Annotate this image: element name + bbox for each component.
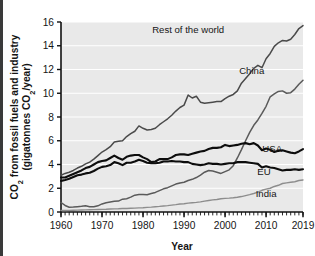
co2-emissions-line-chart: 0246810121416 19601970198019902000201020…: [3, 0, 315, 256]
series-label-china: China: [239, 65, 265, 76]
x-tick-label-2000: 2000: [214, 220, 237, 231]
x-axis-title: Year: [171, 241, 193, 252]
x-tick-label-1960: 1960: [50, 220, 73, 231]
series-label-rest-of-the-world: Rest of the world: [152, 24, 224, 35]
y-axis-title-line1-post: from fossil fuels and industry: [9, 34, 20, 180]
y-tick-label-16: 16: [43, 17, 55, 28]
y-axis-title-line2-post: /year): [21, 63, 32, 90]
x-tick-label-1970: 1970: [91, 220, 114, 231]
y-tick-label-0: 0: [48, 207, 54, 218]
y-tick-label-4: 4: [48, 159, 54, 170]
x-tick-label-1980: 1980: [132, 220, 155, 231]
series-label-usa: USA: [262, 143, 282, 154]
x-tick-label-2019: 2019: [292, 220, 315, 231]
y-tick-label-10: 10: [43, 88, 55, 99]
y-tick-label-6: 6: [48, 135, 54, 146]
y-axis-title-line2-pre: (gigatonnes CO: [21, 95, 32, 171]
y-tick-label-12: 12: [43, 64, 55, 75]
y-axis-title-line1-pre: CO: [9, 184, 20, 199]
y-tick-label-14: 14: [43, 40, 55, 51]
y-tick-label-8: 8: [48, 112, 54, 123]
series-label-india: India: [256, 188, 277, 199]
y-tick-label-2: 2: [48, 183, 54, 194]
x-tick-label-2010: 2010: [255, 220, 278, 231]
chart-figure: 0246810121416 19601970198019902000201020…: [0, 0, 315, 256]
series-label-eu: EU: [257, 166, 270, 177]
x-tick-label-1990: 1990: [173, 220, 196, 231]
